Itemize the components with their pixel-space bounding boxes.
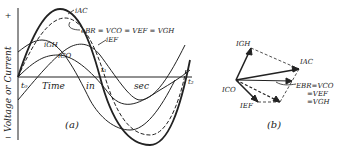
label-ebr: eBR = VCO = VEF = VGH	[81, 27, 175, 35]
label-ebr-b-2: =VEF	[307, 90, 329, 98]
label-igh: iGH	[44, 41, 59, 49]
y-plus-sign: +	[5, 11, 12, 20]
diagram-canvas: + − Voltage or Current t₀ Time in sec t₁…	[0, 0, 338, 148]
t2-label: t₂	[188, 78, 194, 86]
y-minus-sign: −	[5, 133, 12, 142]
phasor-ico-dashed	[236, 80, 280, 102]
label-ico: iCO	[58, 52, 72, 60]
x-word-sec: sec	[134, 81, 149, 91]
label-ico-b: ICO	[221, 86, 236, 94]
x-word-time: Time	[42, 81, 65, 91]
label-ief: iEF	[106, 36, 119, 44]
y-axis-label: Voltage or Current	[3, 46, 13, 132]
label-iac-b: IAC	[299, 58, 314, 66]
panel-b-phasors	[236, 48, 299, 102]
phasor-ebr	[236, 80, 292, 81]
label-iac: iAC	[75, 7, 88, 15]
panel-b-labels: IGH IAC ICO IEF EBR=VCO =VEF =VGH (b)	[221, 40, 334, 130]
label-ebr-b-3: =VGH	[307, 98, 331, 106]
label-ief-b: IEF	[239, 102, 254, 110]
leader-ief	[98, 40, 106, 45]
caption-a: (a)	[65, 119, 79, 130]
t0-label: t₀	[21, 81, 28, 90]
label-ebr-b-1: EBR=VCO	[295, 82, 334, 90]
arrow-ico	[273, 96, 280, 102]
arrow-igh	[246, 48, 252, 55]
t1-label: t₁	[101, 66, 107, 74]
caption-b: (b)	[267, 119, 281, 130]
x-word-in: in	[86, 81, 95, 91]
phasor-iac	[236, 69, 299, 80]
label-igh-b: IGH	[235, 40, 251, 48]
curve-co	[18, 55, 190, 104]
